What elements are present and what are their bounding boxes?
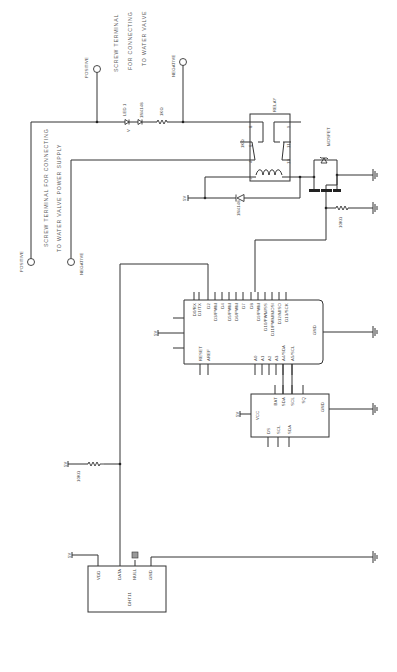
pin-label: A2 [267,355,272,361]
valve-caption-line-3: TO WATER VALVE [141,11,147,66]
pullup-resistor-label: 10KΩ [76,471,81,482]
arduino-5v-label: 5V [153,330,158,336]
mosfet-source-pad [309,189,320,192]
pin-label: A0 [253,355,258,361]
rtc-gnd-label: GND [320,402,325,412]
dht-null-pad [132,552,138,558]
led-diode-label: 1N4148 [139,102,144,118]
pin-label: DS [266,428,271,434]
pin-label: A3 [274,355,279,361]
relay-contact-label: 1KΩ [240,139,245,148]
pin-label: D12/MISO [277,302,282,324]
supply-positive-terminal-icon[interactable] [28,259,35,266]
pin-label: SCL [290,397,295,406]
dht-vdd-label: VDD [96,571,101,580]
mosfet-drain-pad [333,189,341,192]
rtc-vcc-label: VCC [255,411,260,420]
pin-label: D8 [249,303,254,309]
pin-label: D2 [206,303,211,309]
ground-icon [373,551,377,563]
led-label: LED 1 [122,103,127,116]
pin-label: SQ [301,396,306,403]
relay-5v-label: 5V [182,195,187,201]
pin-label: D10/PWM/SS [263,303,268,331]
pin-label: A1 [260,355,265,361]
valve-negative-terminal-icon[interactable] [180,59,187,66]
pin-label: BAT [273,397,278,406]
relay-pin-13: 13 [286,158,291,164]
pin-label: D6/PWM [234,303,239,321]
supply-positive-label: POSITIVE [19,251,24,272]
ground-icon [373,202,377,214]
pin-label: D5/PWM [227,303,232,321]
dht-5v-label: 5V [67,552,72,558]
pin-label: A5/SCL [290,345,295,361]
ground-icon [373,326,377,338]
arduino-board: D0/RXD1/TXD2D3/PWMD4D5/PWMD6/PWMD7D8D9/P… [153,292,377,375]
pin-label: D4 [220,303,225,309]
dht11-label: DHT11 [127,592,132,606]
pullup-resistor-icon [88,462,104,466]
valve-positive-terminal-icon[interactable] [94,66,101,73]
pin-label: D13/SCK [284,303,289,322]
pin-label: SDA [287,425,292,434]
rtc-5v-label: 5V [235,411,240,417]
mosfet-gate-pad [321,189,332,192]
mosfet-label: MOSFET [326,127,331,146]
supply-negative-label: NEGATIVE [79,253,84,275]
pin-label: A4/SDA [281,345,286,361]
valve-terminal-caption: SCREW TERMINAL FOR CONNECTING TO WATER V… [113,11,147,72]
dht11-sensor: VDD DATA NULL GND DHT11 5V [67,551,377,612]
relay-label: RELAY [272,98,277,112]
led-resistor-label: 1KΩ [159,107,164,116]
power-terminal-caption: SCREW TERMINAL FOR CONNECTING TO WATER V… [43,128,62,252]
ground-icon [373,169,377,181]
diode-icon [138,120,142,125]
valve-positive-label: POSITIVE [84,57,89,78]
resistor-icon [157,120,167,124]
pin-label: SDA [281,397,286,406]
pullup-5v-label: 5V [63,461,68,467]
valve-caption-line-1: SCREW TERMINAL [113,14,119,72]
relay-pin-11: 11 [286,143,291,148]
supply-negative-terminal-icon[interactable] [68,259,75,266]
ground-icon [373,403,377,415]
pin-label: D1/TX [197,303,202,316]
valve-caption-line-2: FOR CONNECTING [127,12,133,70]
dht-null-label: NULL [132,568,137,580]
flyback-diode-label: 1N4148 [236,200,241,216]
pin-label: D3/PWM [213,303,218,321]
gate-resistor-icon [336,206,348,210]
pin-label: AREF [206,349,211,361]
gate-resistor-label: 10KΩ [338,217,343,228]
relay-coil-icon [256,170,282,175]
circuit-schematic: SCREW TERMINAL FOR CONNECTING TO WATER V… [0,0,397,672]
pin-label: D11/PWM/MOSI [270,303,275,336]
pin-label: D7 [241,303,246,309]
led-icon [125,120,129,125]
arduino-gnd-label: GND [312,325,317,335]
rtc-module: VCC 5V BATSDASCLSQ DSSCLSDA GND [235,385,377,447]
pin-label: RESET [198,346,203,361]
pin-label: SCL [276,425,281,434]
valve-negative-label: NEGATIVE [171,55,176,77]
power-caption-line-1: SCREW TERMINAL FOR CONNECTING [43,128,49,247]
pin-label: D9/PWM [256,303,261,321]
power-caption-line-2: TO WATER VALVE POWER SUPPLY [56,144,62,252]
dht-data-label: DATA [117,569,122,580]
relay: RELAY 8 6 4 + 9 11 13 - 1KΩ [240,98,301,181]
dht-gnd-label: GND [148,570,153,580]
led-symbol-v: V [126,129,131,132]
